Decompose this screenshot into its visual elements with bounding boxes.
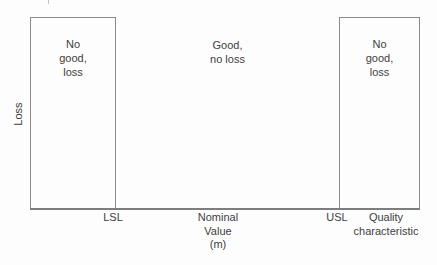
region-label-no-good-loss-left: No good, loss bbox=[30, 37, 116, 79]
y-axis-label-loss: Loss bbox=[12, 102, 24, 125]
scan-artifact-mark bbox=[48, 0, 49, 4]
x-axis-title-quality-characteristic: Quality characteristic bbox=[346, 211, 426, 238]
x-axis-label-lsl: LSL bbox=[93, 211, 133, 225]
region-label-no-good-loss-right: No good, loss bbox=[339, 37, 420, 79]
x-axis-line bbox=[30, 208, 420, 210]
quality-loss-goalpost-diagram: Loss No good, loss Good, no loss No good… bbox=[0, 0, 437, 265]
region-label-good-no-loss: Good, no loss bbox=[116, 38, 339, 66]
x-axis-label-nominal-value: Nominal Value (m) bbox=[178, 211, 258, 252]
